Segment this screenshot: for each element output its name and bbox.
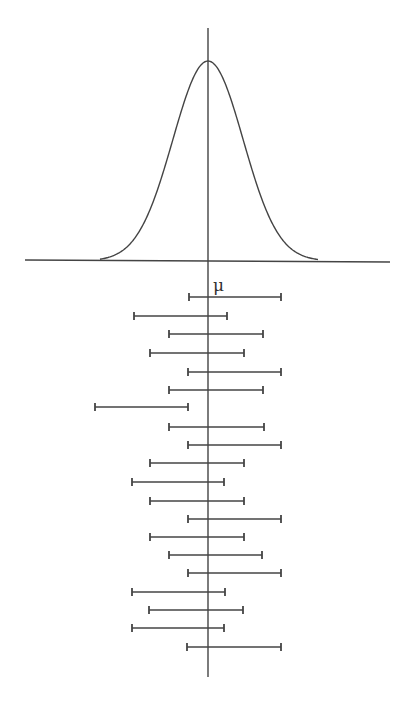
confidence-interval: [169, 330, 263, 338]
mean-label: μ: [213, 275, 224, 295]
confidence-interval: [134, 312, 227, 320]
confidence-interval: [188, 441, 281, 449]
confidence-interval-diagram: μ: [0, 0, 406, 705]
confidence-interval: [132, 588, 225, 596]
confidence-interval: [149, 606, 243, 614]
confidence-intervals: [95, 293, 281, 651]
confidence-interval: [188, 515, 281, 523]
confidence-interval: [150, 533, 244, 541]
confidence-interval: [169, 386, 263, 394]
confidence-interval: [150, 349, 244, 357]
confidence-interval: [132, 478, 224, 486]
confidence-interval: [132, 624, 224, 632]
normal-distribution-curve: [100, 61, 318, 260]
confidence-interval: [188, 368, 281, 376]
bell-curve-path: [100, 61, 318, 260]
confidence-interval: [187, 643, 281, 651]
confidence-interval: [150, 459, 244, 467]
confidence-interval: [188, 569, 281, 577]
confidence-interval: [169, 423, 264, 431]
confidence-interval: [150, 497, 244, 505]
confidence-interval: [169, 551, 262, 559]
confidence-interval: [189, 293, 281, 301]
confidence-interval: [95, 403, 188, 411]
